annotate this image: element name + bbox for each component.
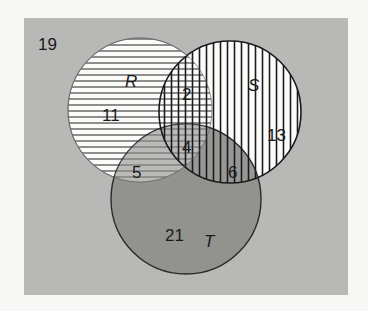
set-r-label: R — [125, 72, 137, 91]
outside-count: 19 — [38, 35, 57, 54]
region-r-s: 2 — [182, 85, 191, 104]
region-r-t: 5 — [132, 163, 141, 182]
region-r-s-t: 4 — [182, 138, 191, 157]
region-t-only: 21 — [165, 226, 184, 245]
set-t-label: T — [204, 232, 216, 251]
region-s-only: 13 — [267, 126, 286, 145]
region-r-only: 11 — [102, 106, 120, 125]
region-s-t: 6 — [228, 163, 237, 182]
venn-diagram: 19 R S T 11 13 21 2 5 6 4 — [0, 0, 368, 311]
set-s-circle — [159, 41, 301, 183]
set-s-label: S — [248, 76, 260, 95]
